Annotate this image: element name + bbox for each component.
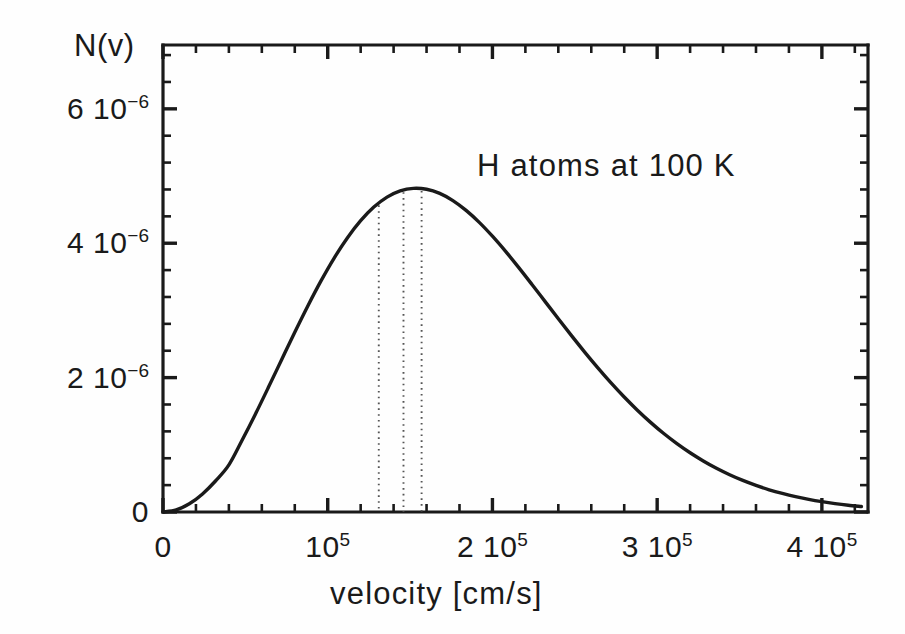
plot-annotation: H atoms at 100 K xyxy=(477,150,736,181)
velocity-marker-lines xyxy=(379,191,422,512)
y-tick-label: 4 10−6 xyxy=(0,228,149,258)
figure-container: N(v) 02 10−64 10−66 10−6 01052 1053 1054… xyxy=(0,0,905,634)
x-tick-label: 4 105 xyxy=(786,532,857,562)
x-axis-title: velocity [cm/s] xyxy=(330,578,543,609)
x-tick-label: 3 105 xyxy=(622,532,693,562)
distribution-curve-layer xyxy=(163,188,861,512)
y-axis-label: N(v) xyxy=(74,30,135,61)
ticks-layer xyxy=(163,45,868,512)
y-tick-label: 6 10−6 xyxy=(0,94,149,124)
x-tick-label: 105 xyxy=(305,532,350,562)
x-tick-label: 2 105 xyxy=(457,532,528,562)
distribution-curve xyxy=(163,188,861,512)
y-tick-label: 2 10−6 xyxy=(0,363,149,393)
x-tick-label: 0 xyxy=(154,532,171,562)
axis-frame xyxy=(163,45,868,512)
y-tick-label: 0 xyxy=(0,497,149,527)
